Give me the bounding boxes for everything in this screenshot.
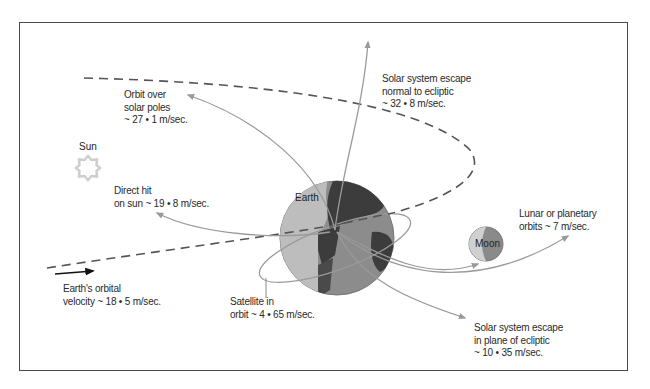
label-lunar-orbits: Lunar or planetary orbits ~ 7 m/sec. (519, 208, 597, 233)
label-direct-hit: Direct hit on sun ~ 19 • 8 m/sec. (114, 185, 209, 210)
label-solar-poles: Orbit over solar poles ~ 27 • 1 m/sec. (124, 89, 188, 127)
sun-icon (76, 156, 100, 180)
label-escape-normal: Solar system escape normal to ecliptic ~… (382, 73, 471, 111)
label-orbital-velocity: Earth's orbital velocity ~ 18 • 5 m/sec. (63, 283, 161, 308)
earth-label: Earth (295, 192, 319, 203)
moon-label: Moon (475, 238, 500, 249)
label-escape-plane: Solar system escape in plane of ecliptic… (474, 322, 563, 360)
sun-label: Sun (79, 141, 97, 152)
orbital-velocity-arrow (55, 271, 93, 274)
label-satellite: Satellite in orbit ~ 4 • 65 m/sec. (230, 296, 315, 321)
